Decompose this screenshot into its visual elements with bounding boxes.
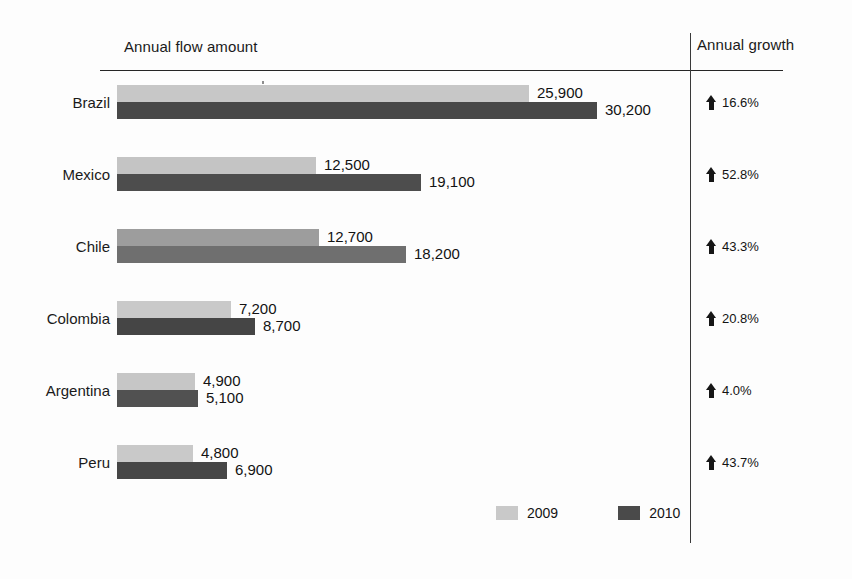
bar-2009-argentina	[117, 373, 195, 390]
chart-row: Argentina4,9005,1004.0%	[0, 373, 852, 413]
chart-row: Brazil25,90030,20016.6%	[0, 85, 852, 125]
growth-cell-brazil: 16.6%	[706, 85, 759, 119]
bar-2009-brazil	[117, 85, 529, 102]
bar-2009-mexico	[117, 157, 316, 174]
country-label-chile: Chile	[0, 238, 110, 255]
legend-item-2009: 2009	[496, 505, 558, 521]
chart-legend: 20092010	[496, 505, 680, 521]
bar-2010-peru	[117, 462, 227, 479]
value-label-2010: 19,100	[429, 173, 475, 190]
legend-swatch-2010	[618, 506, 640, 520]
value-label-2010: 30,200	[605, 101, 651, 118]
bar-2009-peru	[117, 445, 193, 462]
value-label-2010: 18,200	[414, 245, 460, 262]
value-label-2010: 6,900	[235, 461, 273, 478]
arrow-up-icon	[706, 167, 717, 182]
legend-label: 2009	[527, 505, 558, 521]
growth-cell-argentina: 4.0%	[706, 373, 752, 407]
growth-cell-chile: 43.3%	[706, 229, 759, 263]
growth-value: 16.6%	[722, 95, 759, 110]
value-label-2010: 8,700	[263, 317, 301, 334]
arrow-up-icon	[706, 95, 717, 110]
legend-label: 2010	[649, 505, 680, 521]
chart-row: Peru4,8006,90043.7%	[0, 445, 852, 485]
growth-value: 43.7%	[722, 455, 759, 470]
value-label-2009: 12,500	[324, 156, 370, 173]
legend-swatch-2009	[496, 506, 518, 520]
growth-cell-colombia: 20.8%	[706, 301, 759, 335]
growth-cell-peru: 43.7%	[706, 445, 759, 479]
legend-item-2010: 2010	[618, 505, 680, 521]
chart-row: Chile12,70018,20043.3%	[0, 229, 852, 269]
country-label-colombia: Colombia	[0, 310, 110, 327]
value-label-2009: 25,900	[537, 84, 583, 101]
growth-value: 52.8%	[722, 167, 759, 182]
bar-2010-chile	[117, 246, 406, 263]
bar-2010-mexico	[117, 174, 421, 191]
bar-2010-brazil	[117, 102, 597, 119]
country-label-mexico: Mexico	[0, 166, 110, 183]
value-label-2009: 4,900	[203, 372, 241, 389]
arrow-up-icon	[706, 383, 717, 398]
value-label-2009: 7,200	[239, 300, 277, 317]
bar-2010-colombia	[117, 318, 255, 335]
country-label-brazil: Brazil	[0, 94, 110, 111]
annual-flow-chart: Annual flow amount Annual growth Brazil2…	[0, 0, 852, 579]
growth-cell-mexico: 52.8%	[706, 157, 759, 191]
arrow-up-icon	[706, 239, 717, 254]
chart-row: Colombia7,2008,70020.8%	[0, 301, 852, 341]
plot-area: Brazil25,90030,20016.6%Mexico12,50019,10…	[0, 0, 852, 579]
bar-2009-colombia	[117, 301, 231, 318]
value-label-2009: 4,800	[201, 444, 239, 461]
value-label-2009: 12,700	[327, 228, 373, 245]
value-label-2010: 5,100	[206, 389, 244, 406]
bar-2010-argentina	[117, 390, 198, 407]
arrow-up-icon	[706, 455, 717, 470]
country-label-argentina: Argentina	[0, 382, 110, 399]
growth-value: 20.8%	[722, 311, 759, 326]
growth-value: 43.3%	[722, 239, 759, 254]
arrow-up-icon	[706, 311, 717, 326]
country-label-peru: Peru	[0, 454, 110, 471]
growth-value: 4.0%	[722, 383, 752, 398]
bar-2009-chile	[117, 229, 319, 246]
chart-row: Mexico12,50019,10052.8%	[0, 157, 852, 197]
